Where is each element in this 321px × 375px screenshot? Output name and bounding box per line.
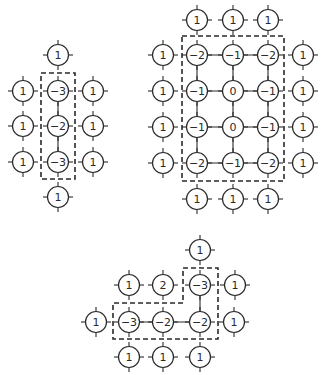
node-label: 1 — [126, 351, 133, 364]
node-label: −3 — [192, 279, 208, 292]
node-label: 1 — [300, 85, 307, 98]
node-label: −3 — [121, 316, 137, 329]
node-label: 1 — [160, 49, 167, 62]
node: −1 — [253, 112, 283, 142]
node: −2 — [182, 148, 212, 178]
node: −2 — [253, 40, 283, 70]
node: 2 — [148, 270, 178, 300]
node-label: −3 — [50, 85, 66, 98]
node-label: 1 — [194, 14, 201, 27]
node-label: −1 — [260, 121, 276, 134]
node-label: 1 — [90, 156, 97, 169]
node: −1 — [182, 76, 212, 106]
node: 0 — [218, 112, 248, 142]
node: −2 — [182, 40, 212, 70]
node-label: 1 — [55, 191, 62, 204]
right-grid-cluster: 1111−2−1−211−10−111−10−111−2−1−21111 — [148, 5, 318, 214]
node: −1 — [253, 76, 283, 106]
node-label: −2 — [189, 49, 205, 62]
diagram-canvas: 11−311−211−3111111−2−1−211−10−111−10−111… — [0, 0, 321, 375]
node-label: 1 — [160, 85, 167, 98]
node-label: 1 — [160, 157, 167, 170]
node-label: 1 — [232, 279, 239, 292]
node: −1 — [218, 40, 248, 70]
node-label: 1 — [55, 49, 62, 62]
node: 1 — [81, 307, 111, 337]
node-label: −1 — [225, 157, 241, 170]
node: 1 — [148, 342, 178, 372]
node: 1 — [288, 148, 318, 178]
node: 1 — [182, 5, 212, 35]
node-label: −1 — [189, 121, 205, 134]
node: 1 — [220, 270, 250, 300]
node: 1 — [8, 147, 38, 177]
node: 1 — [218, 5, 248, 35]
node: 1 — [218, 184, 248, 214]
node-label: −2 — [260, 157, 276, 170]
node: 1 — [114, 342, 144, 372]
node: −3 — [43, 147, 73, 177]
node-label: −2 — [189, 157, 205, 170]
node-label: 1 — [194, 193, 201, 206]
node: 1 — [185, 235, 215, 265]
node-label: 1 — [160, 121, 167, 134]
node: 1 — [288, 76, 318, 106]
node-label: 1 — [197, 244, 204, 257]
node-label: 1 — [300, 49, 307, 62]
node-label: 2 — [160, 279, 167, 292]
node-label: −2 — [192, 316, 208, 329]
node: −2 — [148, 307, 178, 337]
node-label: 1 — [90, 85, 97, 98]
node-label: −2 — [155, 316, 171, 329]
node-label: −2 — [260, 49, 276, 62]
node-label: 1 — [197, 351, 204, 364]
node: 1 — [43, 40, 73, 70]
node-label: 1 — [230, 14, 237, 27]
node: −3 — [114, 307, 144, 337]
node: 1 — [253, 184, 283, 214]
node: 1 — [288, 112, 318, 142]
node-label: 1 — [126, 279, 133, 292]
node: 1 — [288, 40, 318, 70]
node: 1 — [182, 184, 212, 214]
node: 1 — [114, 270, 144, 300]
node-label: −1 — [189, 85, 205, 98]
node: 1 — [253, 5, 283, 35]
node: 1 — [148, 112, 178, 142]
node: −3 — [185, 270, 215, 300]
node-label: −3 — [50, 156, 66, 169]
node: −2 — [185, 307, 215, 337]
node-label: 0 — [230, 85, 237, 98]
node: 1 — [78, 76, 108, 106]
node-label: 1 — [93, 316, 100, 329]
node: 1 — [78, 111, 108, 141]
node: 0 — [218, 76, 248, 106]
node: 1 — [8, 76, 38, 106]
node-label: 1 — [90, 120, 97, 133]
node: −3 — [43, 76, 73, 106]
node-label: 1 — [20, 120, 27, 133]
node: 1 — [8, 111, 38, 141]
node: 1 — [148, 40, 178, 70]
node-label: 1 — [265, 193, 272, 206]
node-label: −1 — [225, 49, 241, 62]
node: 1 — [78, 147, 108, 177]
node: 1 — [148, 76, 178, 106]
node-label: 1 — [300, 157, 307, 170]
node-label: 1 — [20, 85, 27, 98]
node: −1 — [182, 112, 212, 142]
node: 1 — [43, 182, 73, 212]
node-label: −1 — [260, 85, 276, 98]
node-label: 1 — [160, 351, 167, 364]
bottom-l-cluster: 112−311−3−2−21111 — [81, 235, 250, 372]
node-label: 1 — [20, 156, 27, 169]
node: 1 — [148, 148, 178, 178]
left-column-cluster: 11−311−211−311 — [8, 40, 108, 212]
node: 1 — [219, 307, 249, 337]
node-label: 1 — [300, 121, 307, 134]
node: −1 — [218, 148, 248, 178]
node: −2 — [253, 148, 283, 178]
node-label: −2 — [50, 120, 66, 133]
node-label: 0 — [230, 121, 237, 134]
node-label: 1 — [265, 14, 272, 27]
